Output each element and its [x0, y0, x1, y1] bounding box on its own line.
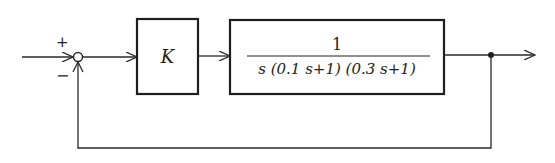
plant-transfer-function-block — [230, 20, 444, 94]
minus-sign: − — [56, 66, 69, 85]
block-diagram: + − K 1 s (0.1 s+1) (0.3 s+1) — [0, 0, 555, 163]
plus-sign: + — [56, 33, 69, 51]
transfer-function-numerator: 1 — [332, 35, 342, 54]
summing-junction — [74, 53, 83, 62]
controller-gain-label: K — [160, 46, 176, 67]
transfer-function-denominator: s (0.1 s+1) (0.3 s+1) — [258, 60, 416, 78]
